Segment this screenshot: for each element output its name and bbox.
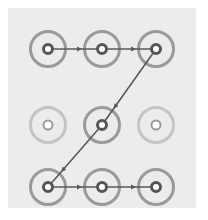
node-dot <box>152 183 161 192</box>
arrow-icon <box>77 185 82 190</box>
pattern-lock-grid[interactable] <box>0 0 208 220</box>
path-segment <box>48 125 102 187</box>
node-dot <box>98 45 107 54</box>
node-dot <box>98 121 107 130</box>
node-dot <box>44 183 53 192</box>
arrow-icon <box>77 47 82 52</box>
arrow-icon <box>131 47 136 52</box>
node-dot <box>44 45 53 54</box>
node-dot <box>44 121 53 130</box>
node-dot <box>152 45 161 54</box>
path-segment <box>102 49 156 125</box>
arrow-icon <box>131 185 136 190</box>
node-dot <box>152 121 161 130</box>
node-dot <box>98 183 107 192</box>
